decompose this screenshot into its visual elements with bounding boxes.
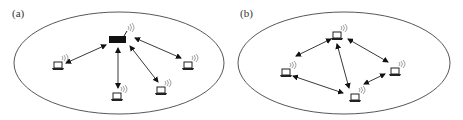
coverage-area-boundary <box>238 12 450 114</box>
panel-label-b: (b) <box>240 7 253 20</box>
laptop-icon <box>280 61 296 77</box>
laptop-icon <box>331 24 347 40</box>
link-top-left <box>296 39 331 56</box>
laptop-icon <box>111 85 127 101</box>
access-point <box>109 23 134 43</box>
link-ap-laptop-bottom-right <box>130 46 158 82</box>
laptop-icon <box>182 54 198 70</box>
network-topology-diagram: (a) (b) <box>0 0 463 120</box>
link-left-bottom <box>293 76 343 93</box>
laptop-icon <box>389 60 405 76</box>
panel-label-a: (a) <box>12 7 25 20</box>
link-ap-laptop-left <box>66 45 106 63</box>
link-bottom-right <box>364 74 385 84</box>
access-point-icon <box>109 36 126 43</box>
panel-ad-hoc: (b) <box>238 7 450 114</box>
link-top-bottom <box>337 44 349 88</box>
link-top-right <box>348 39 388 62</box>
link-ap-laptop-right <box>135 38 181 58</box>
laptop-icon <box>349 86 365 102</box>
panel-infrastructure: (a) <box>12 7 224 114</box>
laptop-icon <box>52 54 68 70</box>
